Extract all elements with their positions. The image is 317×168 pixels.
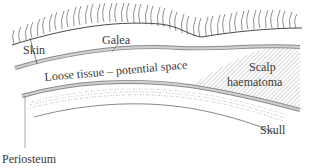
label-scalp-haematoma-line1: Scalp bbox=[249, 61, 276, 73]
label-skin: Skin bbox=[23, 44, 45, 56]
skin-surface-line bbox=[12, 23, 302, 45]
scalp-layers-diagram: Skin Galea Loose tissue – potential spac… bbox=[0, 0, 317, 168]
label-periosteum: Periosteum bbox=[2, 153, 56, 165]
label-galea: Galea bbox=[102, 34, 130, 46]
label-scalp-haematoma-line2: haematoma bbox=[227, 76, 282, 88]
label-skull: Skull bbox=[260, 124, 285, 136]
skull-inner-line bbox=[34, 104, 276, 133]
